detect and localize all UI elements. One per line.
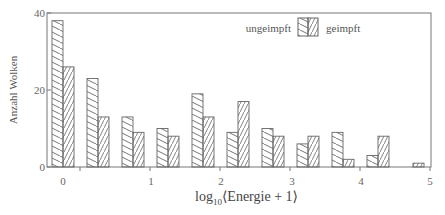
y-tick-label: 0 xyxy=(40,161,46,173)
bar-ungeimpft xyxy=(227,132,238,167)
y-axis-title: Anzahl Wolken xyxy=(7,55,19,124)
legend-label-ungeimpft: ungeimpft xyxy=(246,22,291,34)
legend-swatch-geimpft xyxy=(308,18,318,36)
bar-geimpft xyxy=(273,136,284,167)
bar-geimpft xyxy=(63,67,74,167)
bar-ungeimpft xyxy=(367,155,378,167)
bar-geimpft xyxy=(203,117,214,167)
x-axis-title: log10⟨Energie + 1⟩ xyxy=(195,189,298,207)
bars-group xyxy=(52,21,424,167)
legend-label-geimpft: geimpft xyxy=(326,22,360,34)
y-tick-label: 20 xyxy=(34,84,46,96)
x-tick-label: 1 xyxy=(148,175,154,187)
bar-ungeimpft xyxy=(262,129,273,168)
y-axis: 40 20 0 xyxy=(34,7,51,173)
bar-ungeimpft xyxy=(157,129,168,168)
bar-geimpft xyxy=(98,117,109,167)
bar-ungeimpft xyxy=(192,94,203,167)
bar-geimpft xyxy=(378,136,389,167)
bar-ungeimpft xyxy=(332,132,343,167)
bar-geimpft xyxy=(168,136,179,167)
bar-ungeimpft xyxy=(87,78,98,167)
legend: ungeimpft geimpft xyxy=(246,18,360,36)
x-tick-label: 0 xyxy=(60,175,66,187)
bar-geimpft xyxy=(238,102,249,167)
bar-ungeimpft xyxy=(52,21,63,167)
x-tick-label: 4 xyxy=(358,175,364,187)
bar-geimpft xyxy=(343,159,354,167)
x-tick-label: 2 xyxy=(218,175,224,187)
bar-geimpft xyxy=(133,132,144,167)
legend-swatch-ungeimpft xyxy=(298,18,308,36)
x-axis: 0 1 2 3 4 5 xyxy=(60,167,433,187)
bar-chart: 40 20 0 0 1 2 3 4 5 log10⟨Energie + 1⟩ A… xyxy=(0,0,445,215)
bar-geimpft xyxy=(308,136,319,167)
x-tick-label: 3 xyxy=(289,175,295,187)
bar-ungeimpft xyxy=(122,117,133,167)
bar-geimpft xyxy=(413,163,424,167)
bar-ungeimpft xyxy=(297,144,308,167)
y-tick-label: 40 xyxy=(34,7,46,19)
x-tick-label: 5 xyxy=(427,175,433,187)
